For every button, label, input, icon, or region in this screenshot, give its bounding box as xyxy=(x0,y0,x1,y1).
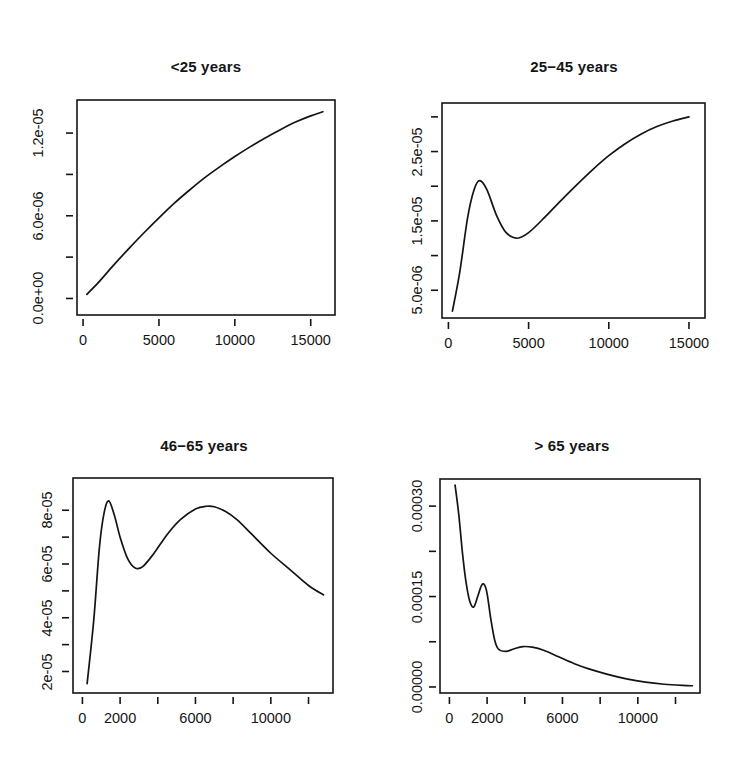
x-tick-label: 10000 xyxy=(226,710,316,726)
plot-frame xyxy=(442,103,705,318)
y-tick-label: 0.00015 xyxy=(408,552,426,642)
x-tick-label: 10000 xyxy=(564,335,654,351)
plot-frame xyxy=(77,100,335,315)
y-tick-label: 1.2e-05 xyxy=(29,88,47,178)
plot-area-3 xyxy=(414,453,726,719)
y-tick-label: 0.00030 xyxy=(408,461,426,551)
plot-area-2 xyxy=(47,452,359,719)
density-curve-3 xyxy=(455,485,692,686)
panel-title-1: 25−45 years xyxy=(434,58,714,75)
panel-title-3: > 65 years xyxy=(432,437,712,454)
y-tick-label: 2.5e-05 xyxy=(408,107,426,197)
density-curve-1 xyxy=(452,117,689,311)
x-tick-label: 0 xyxy=(403,335,493,351)
panel-title-0: <25 years xyxy=(66,58,346,75)
figure-canvas: <25 years0500010000150000.0e+006.0e-061.… xyxy=(0,0,745,775)
x-tick-label: 15000 xyxy=(644,335,734,351)
plot-area-1 xyxy=(416,77,731,344)
x-tick-label: 15000 xyxy=(266,332,356,348)
x-tick-label: 10000 xyxy=(593,710,683,726)
x-tick-label: 5000 xyxy=(484,335,574,351)
density-curve-0 xyxy=(87,112,323,295)
y-tick-label: 6.0e-06 xyxy=(29,171,47,261)
plot-area-0 xyxy=(51,74,361,341)
y-tick-label: 0.0e+00 xyxy=(29,253,47,343)
y-tick-label: 0.00000 xyxy=(408,642,426,732)
density-curve-2 xyxy=(87,501,323,684)
plot-frame xyxy=(440,479,700,693)
y-tick-label: 8e-05 xyxy=(38,465,56,555)
